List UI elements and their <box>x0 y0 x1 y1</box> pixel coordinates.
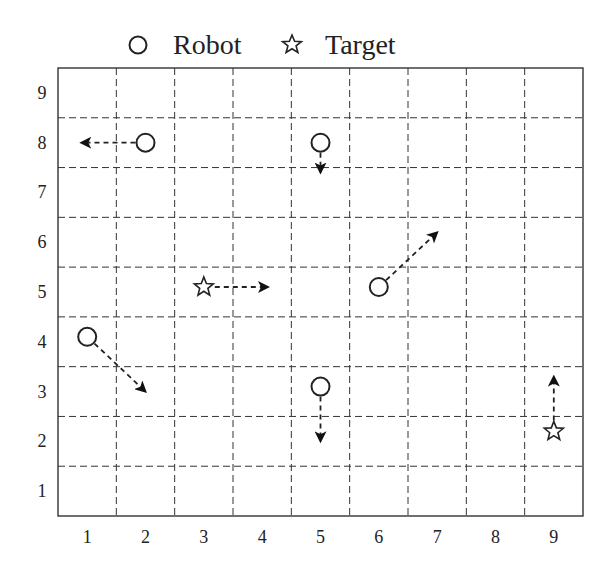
x-axis-label: 3 <box>199 527 208 547</box>
x-axis-labels: 123456789 <box>83 527 559 547</box>
legend: Robot Target <box>130 29 396 60</box>
x-axis-label: 8 <box>491 527 500 547</box>
x-axis-label: 6 <box>374 527 383 547</box>
robot-circle-icon <box>78 328 96 346</box>
robot-circle-icon <box>312 378 330 396</box>
x-axis-label: 4 <box>258 527 267 547</box>
y-axis-label: 1 <box>38 481 47 501</box>
target-agent <box>194 277 268 295</box>
move-down-right-arrow-icon <box>95 344 146 392</box>
robot-target-grid-diagram: Robot Target 123456789 123456789 <box>0 0 613 574</box>
y-axis-label: 9 <box>38 83 47 103</box>
move-up-right-arrow-icon <box>386 232 437 280</box>
legend-robot-circle-icon <box>130 37 147 54</box>
robot-agent <box>78 328 145 392</box>
y-axis-label: 2 <box>38 431 47 451</box>
x-axis-label: 2 <box>141 527 150 547</box>
robot-circle-icon <box>370 278 388 296</box>
y-axis-labels: 123456789 <box>38 83 47 501</box>
legend-robot-label: Robot <box>173 29 242 60</box>
agents-layer <box>78 134 563 442</box>
x-axis-label: 9 <box>549 527 558 547</box>
robot-circle-icon <box>312 134 330 152</box>
y-axis-label: 6 <box>38 232 47 252</box>
robot-agent <box>312 134 330 173</box>
legend-target-star-icon <box>283 35 302 53</box>
y-axis-label: 4 <box>38 332 47 352</box>
robot-agent <box>312 378 330 442</box>
robot-agent <box>81 134 154 152</box>
target-star-icon <box>544 421 563 439</box>
x-axis-label: 7 <box>433 527 442 547</box>
target-agent <box>544 377 563 440</box>
robot-agent <box>370 232 437 296</box>
y-axis-label: 5 <box>38 282 47 302</box>
y-axis-label: 8 <box>38 133 47 153</box>
y-axis-label: 7 <box>38 182 47 202</box>
target-star-icon <box>194 277 213 295</box>
x-axis-label: 1 <box>83 527 92 547</box>
x-axis-label: 5 <box>316 527 325 547</box>
legend-target-label: Target <box>325 29 396 60</box>
y-axis-label: 3 <box>38 382 47 402</box>
robot-circle-icon <box>137 134 155 152</box>
